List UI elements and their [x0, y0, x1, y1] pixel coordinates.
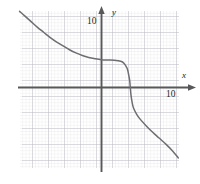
x-axis-arrow — [188, 84, 196, 90]
graph-figure: y x 10 10 — [0, 0, 200, 184]
x-axis-label: x — [182, 71, 186, 80]
x-axis-tick-label-10: 10 — [166, 90, 176, 100]
y-axis-tick-label-10: 10 — [87, 17, 97, 27]
y-axis-label: y — [112, 8, 116, 17]
y-axis-arrow — [98, 6, 104, 14]
